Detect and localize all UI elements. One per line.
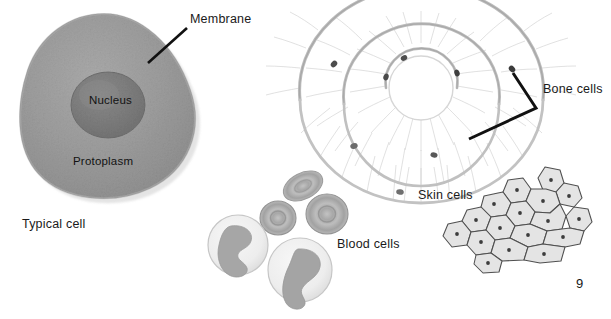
- haversian-canal: [389, 56, 453, 120]
- skin-cell-nucleus: [474, 218, 478, 222]
- skin-cell-nucleus: [507, 248, 511, 252]
- label-typical-cell: Typical cell: [22, 218, 86, 231]
- skin-cell-nucleus: [549, 178, 553, 182]
- typical-cell-figure: [20, 14, 200, 203]
- skin-cell-nucleus: [542, 252, 546, 256]
- bone-cell-lacuna: [396, 189, 404, 195]
- skin-cell-nucleus: [561, 235, 565, 239]
- skin-cell-nucleus: [515, 188, 519, 192]
- bone-cell-lacuna: [382, 73, 389, 81]
- bone-cell-lacuna: [329, 59, 338, 68]
- skin-cell-nucleus: [546, 219, 550, 223]
- skin-cell-nucleus: [577, 217, 581, 221]
- red-blood-cell: [260, 201, 296, 235]
- label-nucleus: Nucleus: [89, 95, 132, 107]
- illustration-page: illustrations of cells: [0, 0, 611, 319]
- skin-cell-nucleus: [479, 240, 483, 244]
- skin-cell-nucleus: [567, 194, 571, 198]
- label-bone-cells: Bone cells: [543, 83, 603, 96]
- skin-cell-nucleus: [492, 202, 496, 206]
- red-blood-cell: [306, 194, 348, 234]
- skin-cells-figure: [443, 167, 592, 273]
- skin-cell-nucleus: [526, 233, 530, 237]
- label-membrane: Membrane: [190, 13, 251, 26]
- skin-cell-nucleus: [486, 261, 490, 265]
- label-protoplasm: Protoplasm: [73, 156, 133, 168]
- skin-cell-nucleus: [518, 211, 522, 215]
- page-number: 9: [576, 277, 583, 290]
- blood-cells-figure: [208, 165, 348, 309]
- label-blood-cells: Blood cells: [337, 238, 400, 251]
- skin-cell-nucleus: [541, 199, 545, 203]
- skin-cell-nucleus: [455, 232, 459, 236]
- skin-cell-nucleus: [498, 226, 502, 230]
- bone-cell-lacuna: [507, 64, 516, 73]
- bone-cells-leader-bracket: [469, 73, 536, 139]
- label-skin-cells: Skin cells: [418, 189, 473, 202]
- bone-cell-lacuna: [430, 152, 438, 159]
